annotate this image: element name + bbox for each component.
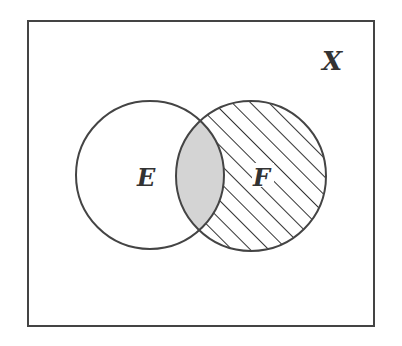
set-f-label: F [252,163,272,192]
set-e-label: E [136,163,156,192]
universe-label: X [320,46,344,76]
venn-diagram: X E F [0,0,402,346]
